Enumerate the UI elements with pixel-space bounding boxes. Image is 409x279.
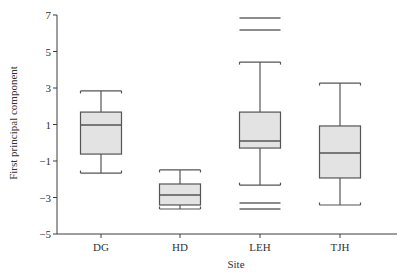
x-axis: DGHDLEHTJH bbox=[57, 234, 397, 253]
iqr-box bbox=[320, 126, 361, 178]
x-tick-label: HD bbox=[172, 241, 188, 253]
y-tick-label: 7 bbox=[46, 9, 52, 21]
x-axis-title: Site bbox=[227, 258, 244, 270]
y-axis-title: First principal component bbox=[7, 66, 19, 180]
box-plot-chart: 7531−1−3−5 DGHDLEHTJH Site First princip… bbox=[0, 0, 409, 279]
y-tick-label: −5 bbox=[39, 228, 51, 240]
x-tick-label: DG bbox=[93, 241, 109, 253]
y-axis: 7531−1−3−5 bbox=[39, 9, 57, 240]
iqr-box bbox=[81, 112, 122, 154]
box-tjh bbox=[320, 83, 361, 205]
box-leh bbox=[240, 18, 281, 209]
x-tick-label: TJH bbox=[331, 241, 350, 253]
y-tick-label: 3 bbox=[46, 82, 52, 94]
y-tick-label: 1 bbox=[46, 119, 52, 131]
y-tick-label: −3 bbox=[39, 192, 51, 204]
box-hd bbox=[160, 170, 201, 209]
y-tick-label: −1 bbox=[39, 155, 51, 167]
y-tick-label: 5 bbox=[46, 46, 52, 58]
x-tick-label: LEH bbox=[249, 241, 270, 253]
iqr-box bbox=[240, 112, 281, 148]
box-dg bbox=[81, 91, 122, 173]
plot-area bbox=[81, 18, 361, 209]
